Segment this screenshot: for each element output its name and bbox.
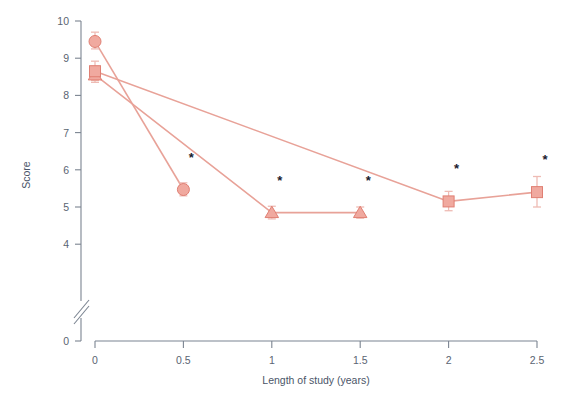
chart-container: 45678910 0 Score 00.511.522.5 Length of … bbox=[0, 0, 562, 401]
x-axis-tick-labels: 00.511.522.5 bbox=[92, 354, 544, 366]
y-axis-tick-label-zero: 0 bbox=[63, 335, 69, 347]
significance-star: * bbox=[366, 173, 372, 188]
x-axis: 00.511.522.5 bbox=[92, 341, 544, 366]
series-line-circle bbox=[95, 41, 183, 189]
series-errorbars-layer bbox=[91, 32, 541, 219]
series-markers-layer bbox=[88, 35, 542, 217]
y-axis-tick-labels: 45678910 bbox=[57, 15, 69, 250]
y-axis: 45678910 0 bbox=[57, 15, 89, 347]
y-axis-title: Score bbox=[20, 161, 32, 189]
significance-star: * bbox=[542, 152, 548, 167]
y-axis-tick-label: 4 bbox=[63, 238, 69, 250]
x-axis-tick-label: 2 bbox=[446, 354, 452, 366]
x-axis-ticks bbox=[95, 341, 537, 348]
x-axis-tick-label: 1 bbox=[269, 354, 275, 366]
data-point-marker-circle bbox=[89, 35, 101, 47]
x-axis-tick-label: 0 bbox=[92, 354, 98, 366]
x-axis-tick-label: 2.5 bbox=[530, 354, 545, 366]
significance-stars-layer: ***** bbox=[189, 150, 549, 188]
y-axis-tick-label: 10 bbox=[57, 15, 69, 27]
score-vs-length-of-study-line-chart: 45678910 0 Score 00.511.522.5 Length of … bbox=[0, 0, 562, 401]
y-axis-tick-label: 5 bbox=[63, 201, 69, 213]
series-line-triangle bbox=[95, 75, 360, 213]
y-axis-tick-label: 8 bbox=[63, 89, 69, 101]
series-line-square bbox=[95, 71, 537, 201]
data-point-marker-square bbox=[443, 196, 454, 207]
y-axis-tick-label: 7 bbox=[63, 127, 69, 139]
data-point-marker-square bbox=[90, 66, 101, 77]
x-axis-tick-label: 0.5 bbox=[176, 354, 191, 366]
x-axis-title: Length of study (years) bbox=[262, 374, 369, 386]
data-point-marker-square bbox=[532, 187, 543, 198]
significance-star: * bbox=[454, 161, 460, 176]
y-axis-ticks bbox=[75, 21, 81, 244]
y-axis-tick-label: 9 bbox=[63, 52, 69, 64]
series-lines-layer bbox=[95, 41, 537, 212]
y-axis-tick-label: 6 bbox=[63, 164, 69, 176]
significance-star: * bbox=[277, 173, 283, 188]
x-axis-tick-label: 1.5 bbox=[353, 354, 368, 366]
data-point-marker-circle bbox=[177, 184, 189, 196]
